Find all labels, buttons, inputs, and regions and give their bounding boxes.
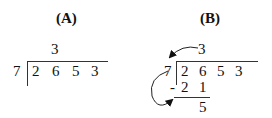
arrow-quotient-to-divisor-icon [170, 47, 198, 57]
arrow-divisor-to-product-icon [151, 71, 172, 105]
arrows [0, 0, 272, 118]
